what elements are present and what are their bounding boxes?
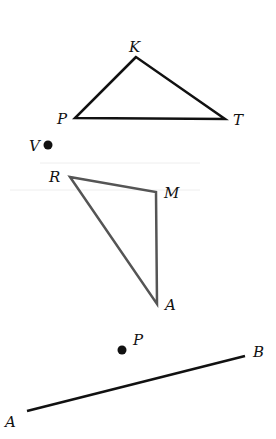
vertex-label-a: A bbox=[163, 296, 176, 314]
point-v-label: V bbox=[29, 137, 42, 155]
figure-svg: K P T V R M A P A B bbox=[0, 0, 276, 439]
vertex-label-k: K bbox=[128, 38, 141, 56]
segment-label-a: A bbox=[3, 413, 16, 431]
triangle-rma bbox=[70, 177, 157, 304]
vertex-label-t: T bbox=[233, 111, 244, 129]
vertex-label-r: R bbox=[48, 168, 60, 186]
segment-label-b: B bbox=[252, 343, 264, 361]
point-p-label: P bbox=[132, 331, 144, 349]
segment-ab bbox=[27, 356, 245, 411]
vertex-label-p: P bbox=[56, 110, 68, 128]
geometry-figure: K P T V R M A P A B bbox=[0, 0, 276, 439]
triangle-kpt bbox=[75, 57, 225, 119]
point-v-dot bbox=[44, 141, 53, 150]
vertex-label-m: M bbox=[163, 184, 180, 202]
point-p-dot bbox=[118, 346, 127, 355]
